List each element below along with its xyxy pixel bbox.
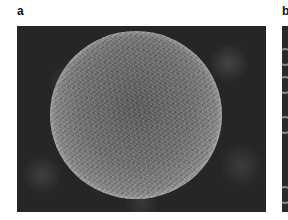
ring-shape (282, 186, 288, 204)
ring-shape (282, 116, 288, 134)
panel-a-image (17, 26, 266, 212)
surface-texture (50, 31, 222, 199)
ring-shape (282, 48, 288, 66)
panel-b-image (282, 26, 288, 212)
particle-sphere (50, 31, 222, 199)
ring-shape (282, 76, 288, 94)
panel-label-a: a (17, 5, 24, 17)
panel-label-b: b (282, 5, 288, 17)
